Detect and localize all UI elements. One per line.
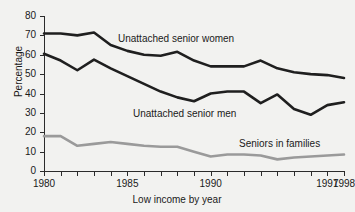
x-tick-1985 [127,172,128,176]
x-tick-label-1985: 1985 [116,178,138,189]
x-tick-1980 [44,172,45,176]
x-tick-label-1998: 1998 [333,178,355,189]
x-tick-1996 [311,172,312,176]
series-label-unattached-senior-men: Unattached senior men [133,108,236,119]
x-tick-1988 [177,172,178,176]
y-axis-line [44,16,45,172]
x-tick-1987 [161,172,162,176]
series-label-seniors-in-families: Seniors in families [239,138,320,149]
x-tick-1993 [261,172,262,176]
x-tick-1997 [327,172,328,176]
x-tick-1992 [244,172,245,176]
x-tick-1981 [61,172,62,176]
x-tick-label-1980: 1980 [33,178,55,189]
y-tick-label-30: 30 [10,108,36,118]
x-axis-title: Low income by year [0,194,354,205]
x-tick-1991 [227,172,228,176]
x-tick-1983 [94,172,95,176]
y-tick-30 [40,113,44,114]
y-tick-label-80: 80 [10,11,36,21]
x-tick-label-1990: 1990 [200,178,222,189]
x-tick-1986 [144,172,145,176]
y-tick-40 [40,94,44,95]
series-label-unattached-senior-women: Unattached senior women [118,33,234,44]
series-line-unattached-senior-men [44,54,344,115]
x-tick-1994 [277,172,278,176]
y-tick-10 [40,152,44,153]
y-tick-label-70: 70 [10,30,36,40]
x-tick-1995 [294,172,295,176]
y-tick-20 [40,132,44,133]
y-tick-label-60: 60 [10,50,36,60]
y-tick-label-20: 20 [10,127,36,137]
y-tick-label-40: 40 [10,89,36,99]
y-tick-label-50: 50 [10,69,36,79]
x-tick-1984 [111,172,112,176]
x-tick-1990 [211,172,212,176]
x-tick-1989 [194,172,195,176]
y-tick-50 [40,74,44,75]
x-tick-1998 [344,172,345,176]
y-tick-60 [40,55,44,56]
y-tick-label-0: 0 [10,166,36,176]
y-tick-70 [40,35,44,36]
y-tick-80 [40,16,44,17]
y-tick-label-10: 10 [10,147,36,157]
x-tick-1982 [77,172,78,176]
